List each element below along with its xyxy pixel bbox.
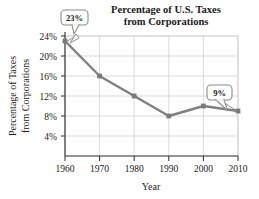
data-point-1970: [97, 74, 102, 79]
y-tick-label-20: 20%: [40, 52, 58, 62]
y-tick-label-4: 4%: [44, 132, 57, 142]
callout-9-label: 9%: [213, 88, 226, 98]
x-tick-label-1990: 1990: [159, 164, 178, 174]
x-tick-label-1960: 1960: [56, 164, 75, 174]
data-point-1990: [166, 114, 171, 119]
x-axis-title: Year: [142, 181, 161, 192]
y-tick-label-16: 16%: [40, 72, 58, 82]
y-tick-label-24: 24%: [40, 32, 58, 42]
x-tick-marks: [65, 156, 238, 161]
data-point-2000: [201, 104, 206, 109]
chart-title-line-2: from Corporations: [124, 16, 209, 27]
x-tick-label-2000: 2000: [194, 164, 213, 174]
y-axis-title-line-2: from Corporations: [20, 59, 31, 133]
callout-23-label: 23%: [66, 13, 83, 23]
y-axis-title-line-1: Percentage of Taxes: [7, 56, 18, 136]
line-chart: Percentage of U.S. Taxes from Corporatio…: [0, 0, 259, 199]
data-point-1980: [132, 94, 137, 99]
y-tick-label-8: 8%: [44, 112, 57, 122]
chart-title-line-1: Percentage of U.S. Taxes: [111, 4, 221, 15]
x-tick-label-1980: 1980: [125, 164, 144, 174]
x-tick-label-1970: 1970: [90, 164, 109, 174]
x-tick-label-2010: 2010: [229, 164, 248, 174]
y-tick-label-12: 12%: [40, 92, 58, 102]
chart-container: Percentage of U.S. Taxes from Corporatio…: [0, 0, 259, 199]
